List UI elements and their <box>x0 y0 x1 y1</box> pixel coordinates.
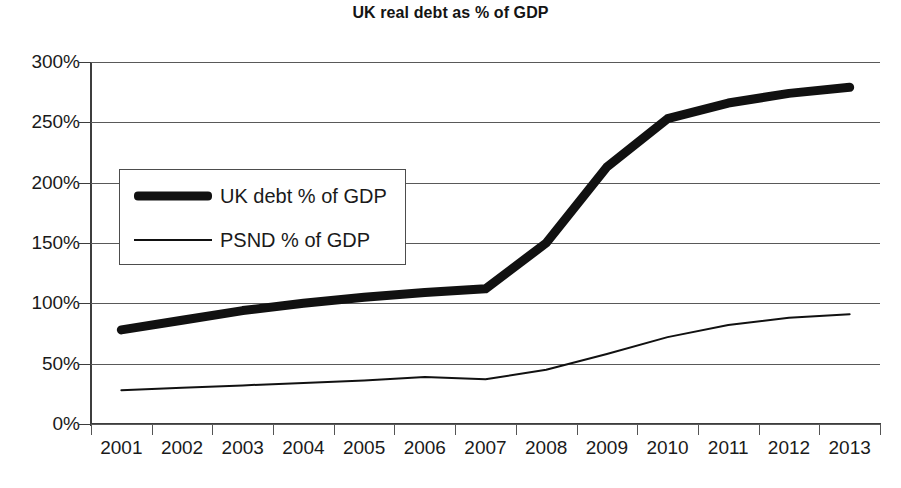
legend-swatch-uk-debt <box>134 176 212 216</box>
chart-container: UK real debt as % of GDP 0%50%100%150%20… <box>0 0 901 488</box>
series-line-psnd-of-gdp <box>121 314 849 390</box>
legend-item-psnd: PSND % of GDP <box>120 220 407 260</box>
legend-swatch-psnd <box>134 220 212 260</box>
chart-legend: UK debt % of GDP PSND % of GDP <box>119 169 406 265</box>
legend-label-psnd: PSND % of GDP <box>220 220 370 260</box>
legend-item-uk-debt: UK debt % of GDP <box>120 176 407 216</box>
legend-label-uk-debt: UK debt % of GDP <box>220 176 387 216</box>
